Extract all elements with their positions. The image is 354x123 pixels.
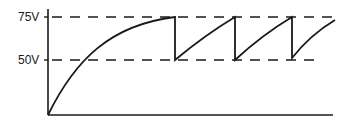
label-75v: 75V [18, 10, 39, 24]
waveform-diagram [0, 0, 354, 123]
voltage-waveform [48, 17, 335, 115]
label-50v: 50V [18, 53, 39, 67]
